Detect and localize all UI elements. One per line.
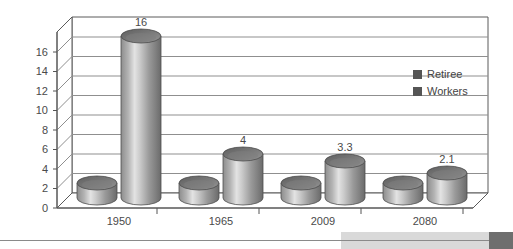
x-tick-2080: 2080: [395, 216, 455, 227]
y-tick-0: 0: [24, 203, 48, 214]
legend-swatch-workers-icon: [413, 87, 422, 96]
bar-retiree-2080[interactable]: [383, 176, 423, 205]
y-tick-8: 8: [24, 125, 48, 136]
bar-workers-1965[interactable]: [223, 147, 263, 205]
x-tick-1950: 1950: [89, 216, 149, 227]
x-tick-1965: 1965: [191, 216, 251, 227]
data-label-2009: 3.3: [325, 142, 365, 153]
bar-workers-2009[interactable]: [325, 154, 365, 205]
y-tick-2: 2: [24, 183, 48, 194]
bar-workers-2080[interactable]: [427, 166, 467, 205]
bar-retiree-2009[interactable]: [281, 176, 321, 205]
x-tick-2009: 2009: [293, 216, 353, 227]
y-tick-4: 4: [24, 164, 48, 175]
legend-label-workers: Workers: [427, 86, 468, 97]
legend-item-retiree[interactable]: Retiree: [413, 66, 485, 83]
data-label-1950: 16: [121, 17, 161, 28]
chart-x-axis: [57, 208, 473, 214]
data-label-1965: 4: [223, 135, 263, 146]
scrollbar-thumb[interactable]: [489, 232, 513, 249]
y-tick-14: 14: [24, 66, 48, 77]
y-tick-10: 10: [24, 105, 48, 116]
chart-left-wall: [57, 17, 72, 208]
bar-retiree-1965[interactable]: [179, 176, 219, 205]
horizontal-scrollbar[interactable]: [0, 232, 513, 249]
y-tick-16: 16: [24, 47, 48, 58]
y-tick-6: 6: [24, 144, 48, 155]
chart-3d-column: 16 14 12 10 8 6 4 2 0 1950 1965 2009 208…: [0, 0, 513, 229]
legend-item-workers[interactable]: Workers: [413, 83, 485, 100]
chart-y-axis: [53, 32, 57, 208]
data-label-2080: 2.1: [427, 154, 467, 165]
chart-plot-svg: [0, 0, 513, 229]
legend-swatch-retiree-icon: [413, 70, 422, 79]
legend-label-retiree: Retiree: [427, 69, 462, 80]
y-tick-12: 12: [24, 86, 48, 97]
scrollbar-divider-line: [0, 240, 513, 241]
bar-workers-1950[interactable]: [121, 29, 161, 205]
chart-legend: Retiree Workers: [413, 66, 485, 100]
bar-retiree-1950[interactable]: [77, 176, 117, 205]
